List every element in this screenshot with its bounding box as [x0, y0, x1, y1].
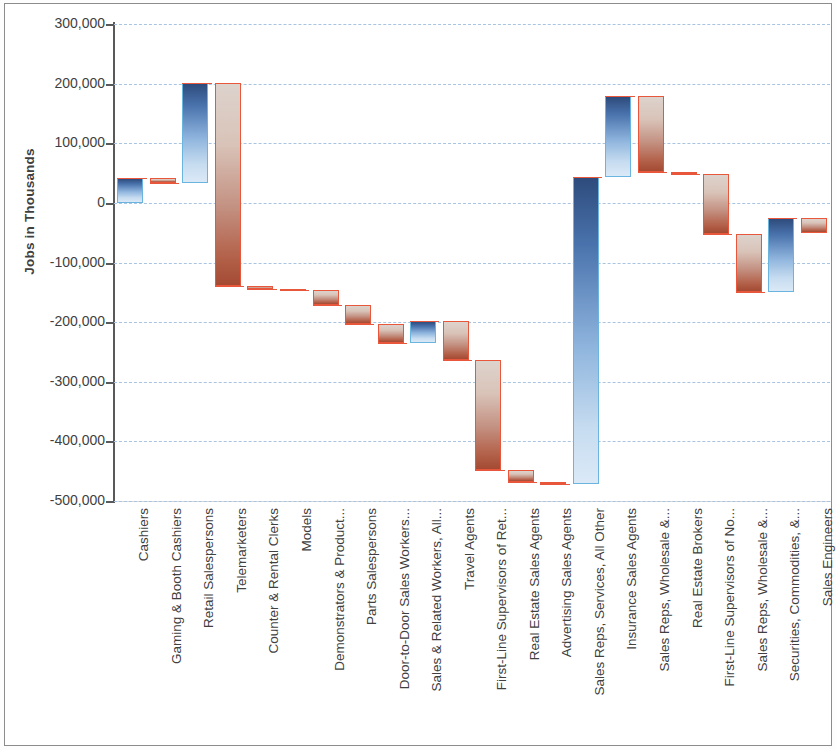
y-axis-tick-label: -200,000: [13, 313, 105, 329]
y-axis-tick: [106, 501, 114, 503]
y-axis-tick: [106, 382, 114, 384]
waterfall-connector: [671, 174, 700, 175]
y-axis-tick-label: -100,000: [13, 254, 105, 270]
x-axis-tick-label: Sales Reps, Services, All Other: [592, 504, 607, 742]
waterfall-connector: [247, 289, 276, 290]
plot-area: [114, 24, 830, 501]
waterfall-bar: [703, 174, 729, 234]
waterfall-connector: [345, 324, 374, 325]
x-axis-tick-label: Travel Agents: [462, 504, 477, 742]
waterfall-connector: [410, 321, 439, 322]
waterfall-connector: [638, 172, 667, 173]
waterfall-bar: [182, 83, 208, 183]
x-axis-tick-label: Real Estate Sales Agents: [527, 504, 542, 742]
y-axis-tick-label: 300,000: [13, 15, 105, 31]
x-axis-tick-label: Demonstrators & Product...: [332, 504, 347, 742]
y-axis-tick-label: -500,000: [13, 492, 105, 508]
x-axis-tick-label: Door-to-Door Sales Workers...: [397, 504, 412, 742]
waterfall-connector: [573, 177, 602, 178]
gridline: [114, 441, 830, 442]
waterfall-bar: [736, 234, 762, 292]
waterfall-bar: [378, 324, 404, 343]
x-axis-tick-label: Counter & Rental Clerks: [266, 504, 281, 742]
waterfall-bar: [215, 83, 241, 286]
y-axis-tick-label: -400,000: [13, 432, 105, 448]
y-axis-tick: [106, 441, 114, 443]
y-axis-tick-label: 100,000: [13, 134, 105, 150]
y-axis-tick-label: 200,000: [13, 75, 105, 91]
x-axis-tick-label: Telemarketers: [234, 504, 249, 742]
x-axis-tick-label: Sales Reps, Wholesale &...: [755, 504, 770, 742]
x-axis-tick-label: Gaming & Booth Cashiers: [169, 504, 184, 742]
waterfall-bar: [508, 470, 534, 482]
waterfall-connector: [117, 178, 146, 179]
waterfall-bar: [313, 290, 339, 305]
y-axis-tick: [106, 263, 114, 265]
x-axis-tick-label: Insurance Sales Agents: [624, 504, 639, 742]
waterfall-connector: [215, 286, 244, 287]
waterfall-bar: [573, 177, 599, 484]
y-axis-tick-label: -300,000: [13, 373, 105, 389]
waterfall-connector: [443, 360, 472, 361]
y-axis-tick: [106, 143, 114, 145]
waterfall-bar: [801, 218, 827, 233]
x-axis-tick-label: Parts Salespersons: [364, 504, 379, 742]
waterfall-connector: [540, 484, 569, 485]
chart-screenshot: Jobs in Thousands 300,000200,000100,0000…: [0, 0, 836, 750]
x-axis-tick-label: Models: [299, 504, 314, 742]
x-axis-tick-labels: CashiersGaming & Booth CashiersRetail Sa…: [114, 504, 830, 747]
waterfall-bar: [605, 96, 631, 176]
y-axis-tick: [106, 322, 114, 324]
x-axis-tick-label: Sales Reps, Wholesale &...: [657, 504, 672, 742]
gridline: [114, 501, 830, 502]
y-axis-tick: [106, 84, 114, 86]
waterfall-connector: [150, 183, 179, 184]
waterfall-connector: [313, 305, 342, 306]
waterfall-connector: [508, 482, 537, 483]
waterfall-connector: [378, 343, 407, 344]
gridline: [114, 24, 830, 25]
x-axis-tick-label: Securities, Commodities, &...: [787, 504, 802, 742]
x-axis-tick-label: Advertising Sales Agents: [559, 504, 574, 742]
y-axis-tick-label: 0: [13, 194, 105, 210]
waterfall-bar: [410, 321, 436, 343]
waterfall-connector: [475, 470, 504, 471]
waterfall-connector: [768, 218, 797, 219]
x-axis-tick-label: First-Line Supervisors of No...: [722, 504, 737, 742]
x-axis-tick-label: Sales & Related Workers, All...: [429, 504, 444, 742]
waterfall-bar: [638, 96, 664, 172]
waterfall-connector: [182, 83, 211, 84]
y-axis-tick: [106, 203, 114, 205]
waterfall-bar: [345, 305, 371, 324]
y-axis-tick: [106, 24, 114, 26]
waterfall-bar: [443, 321, 469, 360]
waterfall-connector: [703, 234, 732, 235]
waterfall-bar: [768, 218, 794, 293]
waterfall-connector: [736, 292, 765, 293]
waterfall-connector: [605, 96, 634, 97]
gridline: [114, 382, 830, 383]
waterfall-connector: [280, 290, 309, 291]
y-axis-tick-labels: 300,000200,000100,0000-100,000-200,000-3…: [5, 4, 105, 504]
waterfall-bar: [117, 178, 143, 203]
x-axis-tick-label: Sales Engineers: [820, 504, 835, 742]
chart-frame: Jobs in Thousands 300,000200,000100,0000…: [4, 3, 832, 746]
x-axis-tick-label: Retail Salespersons: [201, 504, 216, 742]
x-axis-tick-label: Cashiers: [136, 504, 151, 742]
waterfall-bar: [475, 360, 501, 470]
x-axis-tick-label: Real Estate Brokers: [690, 504, 705, 742]
x-axis-tick-label: First-Line Supervisors of Ret...: [494, 504, 509, 742]
gridline: [114, 322, 830, 323]
